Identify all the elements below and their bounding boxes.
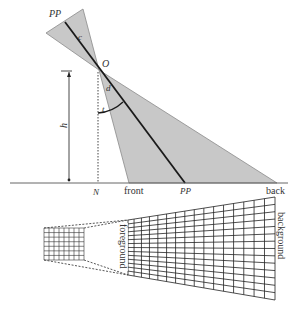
label-pp-top: PP [48, 8, 61, 19]
label-front: front [124, 185, 144, 196]
label-n: N [92, 187, 100, 197]
label-back: back [266, 185, 285, 196]
label-pp-bottom: PP [179, 186, 191, 196]
label-d: d [106, 83, 111, 93]
label-foreground: foreground [118, 224, 129, 268]
lower-view-cone [99, 70, 277, 183]
label-c: c [78, 32, 82, 42]
label-background: background [276, 212, 287, 259]
image-grid [44, 228, 84, 260]
perspective-diagram: PP c O d t h N front PP back foreground … [0, 0, 298, 313]
ground-footprint-grid [128, 197, 275, 300]
label-h: h [58, 123, 69, 128]
label-o: O [102, 58, 109, 69]
